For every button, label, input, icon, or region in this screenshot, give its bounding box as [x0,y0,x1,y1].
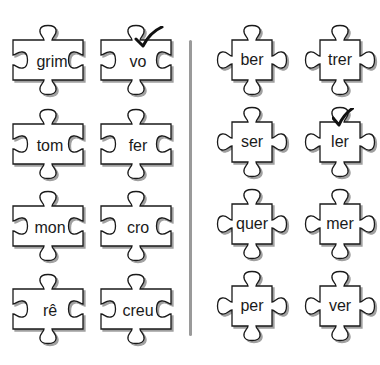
right-piece[interactable]: quer [212,184,292,264]
left-piece[interactable]: mon [6,190,94,266]
left-piece[interactable]: grim [6,24,94,100]
checkmark-icon [134,26,164,50]
left-piece[interactable]: tom [6,108,94,184]
right-piece[interactable]: mer [300,184,380,264]
piece-label: per [212,266,292,346]
piece-label: ser [212,102,292,182]
piece-label: mer [300,184,380,264]
piece-label: mon [6,190,94,266]
column-divider [189,40,192,336]
piece-label: creu [94,273,182,349]
right-piece[interactable]: ver [300,266,380,346]
left-piece[interactable]: fer [94,108,182,184]
piece-label: cro [94,190,182,266]
right-piece[interactable]: trer [300,20,380,100]
right-piece[interactable]: ber [212,20,292,100]
right-piece[interactable]: per [212,266,292,346]
left-piece[interactable]: cro [94,190,182,266]
piece-label: tom [6,108,94,184]
piece-label: fer [94,108,182,184]
checkmark-icon [332,108,354,130]
piece-label: trer [300,20,380,100]
piece-label: grim [6,24,96,100]
left-piece[interactable]: rê [6,273,94,349]
piece-label: ber [212,20,292,100]
piece-label: quer [212,184,292,264]
left-piece[interactable]: creu [94,273,182,349]
piece-label: rê [6,273,94,349]
right-piece[interactable]: ser [212,102,292,182]
piece-label: ver [300,266,380,346]
